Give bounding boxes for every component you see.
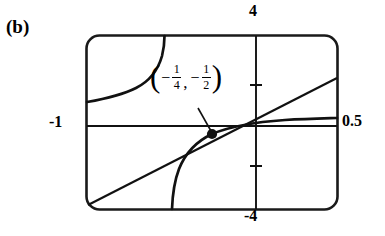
point-coordinate-label: ( − 1 4 , − 1 2 ) (150, 62, 222, 93)
y-denominator: 2 (202, 79, 210, 91)
coordinate-comma: , (182, 74, 189, 91)
x-denominator: 4 (173, 79, 181, 91)
intersection-point-dot (207, 129, 217, 139)
y-numerator: 1 (202, 63, 210, 75)
window-ymin-label: -4 (244, 207, 257, 225)
x-minus-sign: − (160, 70, 171, 86)
window-xmax-label: 0.5 (342, 112, 362, 130)
close-paren: ) (212, 61, 222, 92)
x-fraction: 1 4 (171, 63, 182, 91)
window-xmin-label: -1 (49, 113, 62, 131)
panel-label: (b) (6, 16, 29, 38)
open-paren: ( (150, 61, 160, 92)
window-ymax-label: 4 (249, 2, 257, 20)
y-fraction: 1 2 (201, 63, 212, 91)
y-minus-sign: − (190, 70, 201, 86)
x-numerator: 1 (173, 63, 181, 75)
